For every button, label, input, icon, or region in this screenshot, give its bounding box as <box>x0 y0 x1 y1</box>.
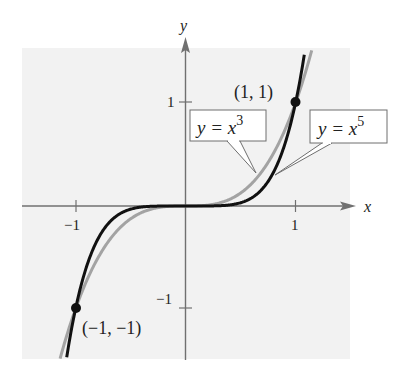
point-label-neg1-neg1: (−1, −1) <box>82 318 141 339</box>
y-axis-label: y <box>178 17 188 35</box>
x-tick-label-neg1: −1 <box>64 217 80 233</box>
x-axis-label: x <box>363 198 371 215</box>
point-1-1 <box>291 97 301 107</box>
point-neg1-neg1 <box>71 303 81 313</box>
y-tick-label-1: 1 <box>167 94 175 110</box>
x-tick-label-1: 1 <box>291 217 299 233</box>
chart: x y −1 1 1 −1 y = x3 y = x5 (1, 1) (−1, … <box>0 0 404 373</box>
series-label-x3: y = x3 <box>195 113 243 138</box>
y-tick-label-neg1: −1 <box>156 291 172 307</box>
series-label-x5: y = x5 <box>316 114 364 139</box>
point-label-1-1: (1, 1) <box>234 82 273 103</box>
